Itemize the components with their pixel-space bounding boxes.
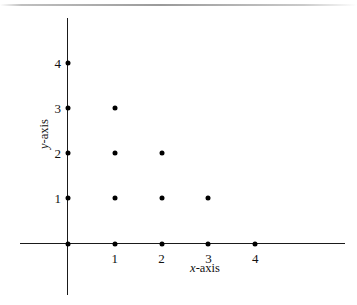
data-point: [159, 151, 164, 156]
y-tick-label: 1: [55, 192, 62, 205]
data-point: [66, 196, 71, 201]
scan-artifact-line: [0, 4, 357, 6]
scatter-plot-figure: 1234 1234 x-axis y-axis: [0, 0, 357, 305]
data-point: [206, 241, 211, 246]
data-point: [112, 105, 117, 110]
y-axis-title-suffix: -axis: [37, 119, 51, 143]
y-tick-label: 2: [55, 147, 62, 160]
data-point: [66, 241, 71, 246]
y-axis-title-symbol: y: [37, 143, 51, 149]
x-tick-label: 2: [158, 252, 165, 265]
x-axis-title: x-axis: [190, 261, 220, 276]
data-point: [253, 241, 258, 246]
data-point: [112, 241, 117, 246]
x-axis-title-suffix: -axis: [196, 261, 220, 275]
data-point: [66, 151, 71, 156]
data-point: [159, 241, 164, 246]
y-tick-label: 4: [55, 56, 62, 69]
y-tick-label: 3: [55, 101, 62, 114]
y-axis-title: y-axis: [37, 119, 52, 149]
data-point: [206, 196, 211, 201]
data-point: [159, 196, 164, 201]
data-point: [112, 151, 117, 156]
x-tick-label: 1: [112, 252, 119, 265]
data-point: [66, 105, 71, 110]
data-point: [112, 196, 117, 201]
x-tick-label: 4: [252, 252, 259, 265]
data-point: [66, 60, 71, 65]
